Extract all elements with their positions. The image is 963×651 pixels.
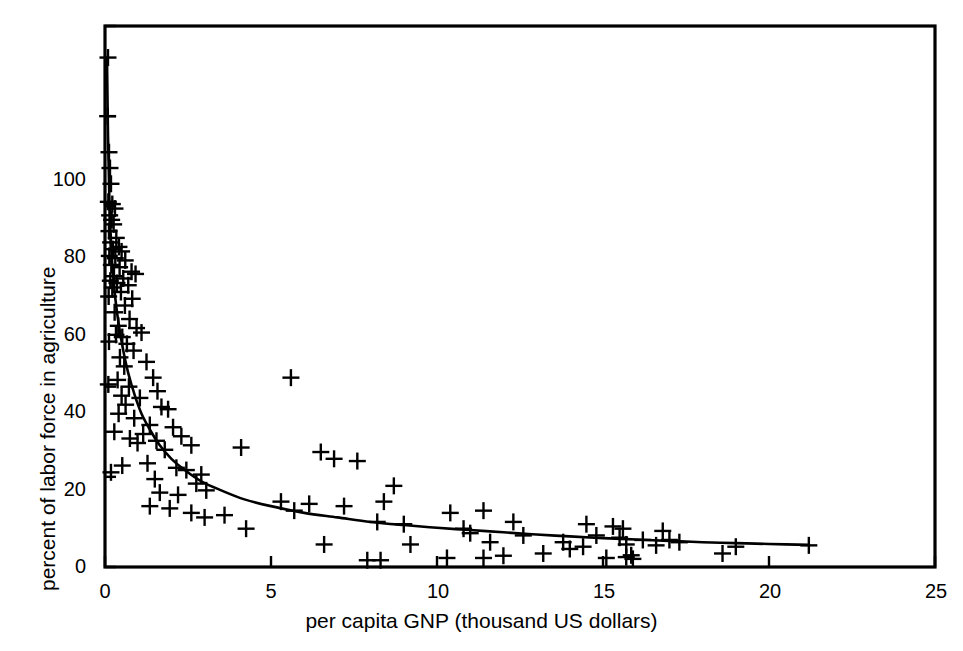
- x-tick-label-5: 5: [248, 580, 294, 603]
- x-tick-label-15: 15: [581, 580, 627, 603]
- scatter-plot-figure: 100 80 60 40 20 0 0 5 10 15 20 25 per ca…: [0, 0, 963, 651]
- x-tick-label-20: 20: [747, 580, 793, 603]
- x-tick-label-10: 10: [415, 580, 461, 603]
- y-tick-label-100: 100: [40, 168, 86, 191]
- plot-canvas: [0, 0, 963, 651]
- plot-background: [0, 0, 963, 651]
- x-axis-title: per capita GNP (thousand US dollars): [0, 609, 963, 633]
- y-tick-label-80: 80: [40, 245, 86, 268]
- x-tick-label-0: 0: [82, 580, 128, 603]
- x-tick-label-25: 25: [913, 580, 959, 603]
- y-axis-title: percent of labor force in agriculture: [36, 266, 60, 591]
